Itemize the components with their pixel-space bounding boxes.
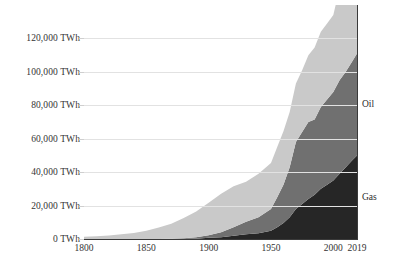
gridline: [84, 139, 357, 140]
right-axis-line: [357, 5, 358, 240]
y-axis-tick-label: 60,000 TWh: [31, 134, 80, 144]
x-axis-line: [84, 239, 357, 240]
gridlines: [84, 5, 357, 239]
y-axis-tick: [79, 239, 84, 240]
y-axis-tick-label: 20,000 TWh: [31, 201, 80, 211]
gridline: [84, 38, 357, 39]
x-axis-tick-label: 1800: [75, 243, 94, 253]
gridline: [84, 172, 357, 173]
x-axis-tick-label: 1850: [137, 243, 156, 253]
y-axis-tick: [79, 206, 84, 207]
gridline: [84, 105, 357, 106]
y-axis-tick: [79, 172, 84, 173]
gridline: [84, 72, 357, 73]
y-axis-tick-label: 80,000 TWh: [31, 100, 80, 110]
series-label-oil: Oil: [362, 99, 374, 109]
y-axis-tick-label: 40,000 TWh: [31, 167, 80, 177]
x-axis-tick-label: 1950: [261, 243, 280, 253]
y-axis-tick: [79, 72, 84, 73]
y-axis-tick: [79, 139, 84, 140]
y-axis-tick-label: 100,000 TWh: [26, 67, 80, 77]
series-label-coal: Coal: [362, 0, 380, 2]
x-axis-tick-label: 1900: [199, 243, 218, 253]
plot-area: [84, 5, 357, 239]
x-axis-tick-label: 2019: [348, 243, 367, 253]
y-axis-tick-label: 120,000 TWh: [26, 33, 80, 43]
x-axis-labels: 180018501900195020002019: [0, 243, 393, 263]
series-label-gas: Gas: [362, 192, 377, 202]
y-axis-labels: 0 TWh20,000 TWh40,000 TWh60,000 TWh80,00…: [0, 0, 80, 265]
y-axis-tick: [79, 38, 84, 39]
x-axis-tick-label: 2000: [324, 243, 343, 253]
fossil-fuel-consumption-chart: 0 TWh20,000 TWh40,000 TWh60,000 TWh80,00…: [0, 0, 393, 265]
gridline: [84, 206, 357, 207]
y-axis-tick: [79, 105, 84, 106]
